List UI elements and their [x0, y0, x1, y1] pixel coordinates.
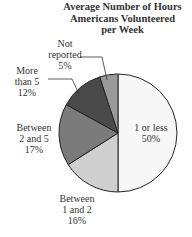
label-between-1-and-2: Between 1 and 2 16%: [53, 193, 101, 226]
label-between-2-and-5: Between 2 and 5 17%: [12, 122, 56, 155]
leader-more-than-5: [48, 79, 79, 94]
label-1-or-less: 1 or less 50%: [128, 122, 174, 144]
label-more-than-5: More than 5 12%: [6, 65, 48, 98]
label-not-reported: Not reported 5%: [44, 38, 86, 71]
